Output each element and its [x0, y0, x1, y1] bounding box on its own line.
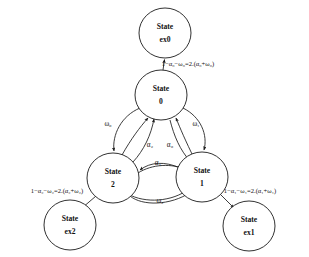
node-state-2[interactable]: State 2 [87, 153, 139, 203]
state-diagram-svg: State ex0 State 0 State 2 State 1 State … [0, 0, 309, 257]
edge-label-omega1: ω₁ [192, 120, 200, 128]
edge-label-s0-to-ex0: 1−α₀−ω₀=2.(α₀+ω₀) [162, 60, 214, 68]
edge-label-alpha0: α₀ [167, 141, 174, 149]
edge-arrow-s1-ex1 [220, 194, 234, 208]
node-ex2-label-line1: State [62, 214, 79, 223]
edge-s1-to-s0-return [176, 118, 194, 158]
edge-s0-to-s2-omega [114, 108, 140, 151]
node-s0-shape[interactable] [135, 70, 187, 120]
edge-arrow-s1-s0 [176, 118, 194, 158]
node-s0-label-line1: State [153, 84, 170, 93]
node-state-ex0[interactable]: State ex0 [139, 8, 191, 58]
node-state-0[interactable]: State 0 [135, 70, 187, 120]
node-ex1-label-line2: ex1 [244, 228, 255, 237]
edge-label-alpha1: α₁ [155, 159, 162, 167]
node-ex1-label-line1: State [241, 215, 258, 224]
node-s0-label-line2: 0 [159, 97, 163, 106]
node-ex2-shape[interactable] [44, 200, 96, 250]
node-s1-label-line1: State [194, 166, 211, 175]
edge-label-omega2: ω₂ [156, 197, 164, 205]
node-s1-label-line2: 1 [200, 179, 204, 188]
node-ex0-label-line2: ex0 [160, 35, 171, 44]
edge-label-s2-to-ex2: 1−α₂−ω₂=2.(α₂+ω₂) [31, 187, 83, 195]
state-diagram-canvas: State ex0 State 0 State 2 State 1 State … [0, 0, 309, 257]
edge-arrow-s2-s0-outer [122, 118, 148, 155]
edge-s2-to-s0-return [122, 118, 148, 155]
node-ex1-shape[interactable] [223, 201, 275, 251]
node-state-1[interactable]: State 1 [176, 152, 228, 202]
node-ex2-label-line2: ex2 [65, 227, 76, 236]
node-state-ex2[interactable]: State ex2 [44, 200, 96, 250]
edge-label-s1-to-ex1: 1−α₁−ω₁=2.(α₁+ω₁) [224, 187, 276, 195]
edge-s1-to-ex1 [220, 194, 234, 208]
node-s2-label-line1: State [105, 167, 122, 176]
node-s2-shape[interactable] [87, 153, 139, 203]
node-state-ex1[interactable]: State ex1 [223, 201, 275, 251]
edge-s0-to-s1-omega [183, 108, 205, 150]
node-s2-label-line2: 2 [111, 180, 115, 189]
node-ex0-label-line1: State [157, 22, 174, 31]
node-s1-shape[interactable] [176, 152, 228, 202]
edge-label-alpha2: α₂ [147, 141, 154, 149]
edge-arrow-s0-s1 [183, 108, 205, 150]
node-ex0-shape[interactable] [139, 8, 191, 58]
edge-label-omega0: ω₀ [104, 120, 112, 128]
edge-arrow-s0-s2 [114, 108, 140, 151]
